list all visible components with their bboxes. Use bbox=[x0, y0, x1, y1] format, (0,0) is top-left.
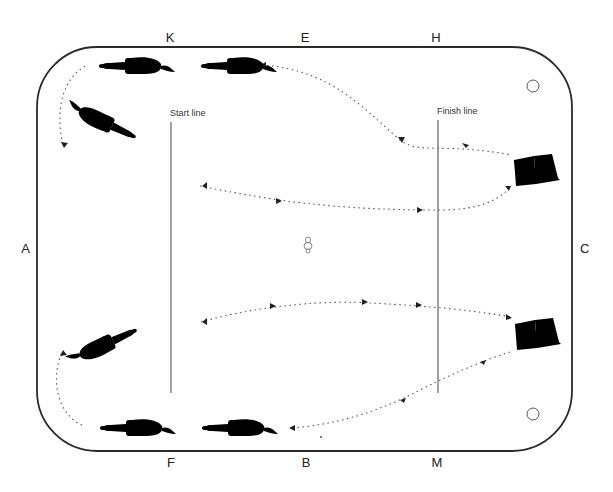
letter-f: F bbox=[167, 455, 175, 470]
arrow-icon bbox=[202, 182, 207, 189]
path-upper-crossing bbox=[200, 185, 512, 210]
stray-dot bbox=[320, 436, 322, 438]
path-f-corner bbox=[56, 352, 82, 425]
letter-c: C bbox=[580, 241, 589, 256]
path-arrows bbox=[60, 62, 512, 431]
letter-h: H bbox=[431, 30, 440, 45]
path-lower-crossing bbox=[201, 302, 512, 322]
book-icon-upper bbox=[514, 154, 560, 186]
arrow-icon bbox=[276, 198, 282, 204]
book-icon-lower bbox=[515, 318, 561, 350]
arrow-icon bbox=[416, 302, 422, 308]
horse-icon-bottom-f bbox=[100, 419, 176, 436]
horse-icon-bottom-b bbox=[202, 419, 278, 436]
arena-diagram: K E H F B M A C Start line Finish line bbox=[0, 0, 613, 492]
horse-icon-top-e bbox=[201, 57, 277, 74]
arrow-icon bbox=[506, 314, 512, 320]
arrow-icon bbox=[362, 299, 368, 305]
horse-icon-top-k bbox=[99, 57, 175, 74]
finish-line-label: Finish line bbox=[437, 106, 478, 116]
arrow-icon bbox=[505, 186, 511, 191]
horse-icon-lower-left bbox=[64, 323, 140, 370]
letter-a: A bbox=[21, 241, 30, 256]
arrow-icon bbox=[289, 425, 295, 431]
path-finish-to-b bbox=[292, 352, 510, 428]
letter-e: E bbox=[301, 30, 310, 45]
horse-icon-upper-left bbox=[63, 98, 139, 145]
arrow-icon bbox=[400, 398, 406, 403]
arrow-icon bbox=[270, 303, 276, 309]
corner-circle-bottom-right bbox=[527, 408, 539, 420]
start-line-label: Start line bbox=[170, 108, 206, 118]
arrow-icon bbox=[202, 318, 207, 325]
letter-m: M bbox=[432, 455, 443, 470]
arrow-icon bbox=[60, 350, 67, 356]
arrow-icon bbox=[462, 143, 469, 148]
arena-boundary bbox=[37, 47, 572, 451]
arrow-icon bbox=[61, 142, 68, 148]
letter-b: B bbox=[302, 455, 311, 470]
arrow-icon bbox=[480, 360, 486, 365]
letter-k: K bbox=[166, 30, 175, 45]
center-marker-icon bbox=[304, 237, 312, 253]
corner-circle-top-right bbox=[527, 80, 539, 92]
arrow-icon bbox=[417, 207, 423, 213]
